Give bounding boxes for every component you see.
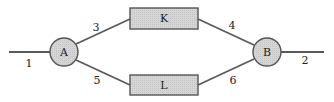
- node-a-label: A: [59, 46, 69, 59]
- edge-5: [76, 60, 130, 85]
- edge-label-5: 5: [94, 74, 101, 87]
- edge-6: [198, 59, 254, 85]
- node-b-label: B: [263, 46, 271, 59]
- edge-3: [76, 19, 130, 44]
- node-k: K: [130, 8, 198, 29]
- edge-label-1: 1: [26, 57, 33, 70]
- node-l-label: L: [160, 79, 168, 92]
- node-b: B: [253, 38, 281, 66]
- edge-label-2: 2: [302, 54, 309, 67]
- node-k-label: K: [160, 12, 169, 25]
- network-diagram: A B K L 1 3 5 4 6 2: [0, 0, 334, 102]
- edge-label-6: 6: [230, 74, 237, 87]
- edge-label-4: 4: [229, 19, 236, 32]
- edge-label-3: 3: [93, 21, 100, 34]
- node-a: A: [50, 38, 78, 66]
- edge-4: [198, 19, 254, 45]
- node-l: L: [130, 75, 198, 95]
